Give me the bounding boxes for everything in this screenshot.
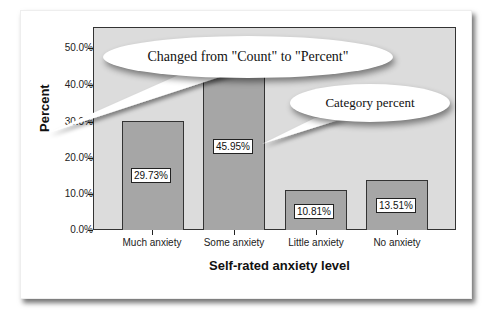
callout-category-percent: Category percent xyxy=(290,84,450,122)
callout-axis-change: Changed from "Count" to "Percent" xyxy=(103,36,393,78)
